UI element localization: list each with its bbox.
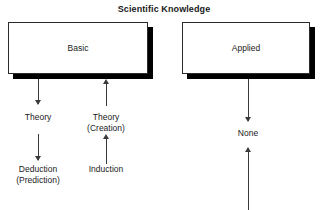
edge-label-deduction-line1: Deduction — [8, 164, 68, 175]
node-box-applied-label: Applied — [232, 43, 260, 54]
basic-box-shadow-bottom — [13, 74, 153, 79]
node-box-applied[interactable]: Applied — [182, 22, 310, 74]
arrow-down-icon — [245, 117, 251, 122]
edge-label-deduction: Deduction (Prediction) — [8, 164, 68, 185]
node-box-basic-label: Basic — [68, 43, 89, 54]
edge-label-theory-creation: Theory (Creation) — [80, 112, 132, 133]
edge-label-induction: Induction — [82, 164, 130, 175]
connector-below-to-none — [248, 152, 249, 210]
arrow-up-icon — [103, 134, 109, 139]
connector-theory-creation-to-basic — [106, 84, 107, 106]
connector-applied-to-none — [248, 79, 249, 121]
connector-induction-to-theory-creation — [106, 138, 107, 164]
edge-label-deduction-line2: (Prediction) — [8, 175, 68, 186]
arrow-down-icon — [35, 156, 41, 161]
edge-label-none: None — [228, 128, 268, 139]
basic-box-shadow-right — [148, 27, 153, 79]
arrow-up-icon — [245, 147, 251, 152]
edge-label-theory: Theory — [18, 112, 58, 123]
page-title: Scientific Knowledge — [0, 4, 328, 14]
arrow-down-icon — [35, 100, 41, 105]
arrow-up-icon — [103, 79, 109, 84]
node-box-basic[interactable]: Basic — [8, 22, 148, 74]
applied-box-shadow-bottom — [187, 74, 315, 79]
diagram-canvas: Scientific Knowledge Basic Applied Theor… — [0, 0, 328, 210]
edge-label-theory-creation-line1: Theory — [80, 112, 132, 123]
applied-box-shadow-right — [310, 27, 315, 79]
edge-label-theory-creation-line2: (Creation) — [80, 123, 132, 134]
